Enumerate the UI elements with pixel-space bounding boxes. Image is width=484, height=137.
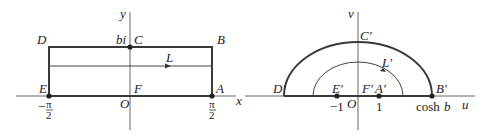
figure-canvas: y x O D B C bi L E F A − π 2 π 2 v u O C…	[0, 0, 484, 137]
origin-label: O	[347, 96, 357, 111]
label-A: A	[215, 81, 224, 96]
label-D-prime: D′	[272, 81, 285, 96]
label-L: L	[165, 50, 173, 65]
v-axis-label: v	[348, 6, 354, 21]
label-E-prime: E′	[331, 81, 343, 96]
point-C	[127, 44, 132, 49]
tick-b: b	[444, 99, 451, 114]
y-axis-label: y	[118, 6, 126, 21]
label-A-prime: A′	[374, 81, 386, 96]
label-B: B	[217, 32, 225, 47]
origin-label: O	[120, 96, 130, 111]
u-axis-label: u	[462, 97, 469, 112]
label-E: E	[38, 81, 47, 96]
label-C: C	[134, 32, 143, 47]
label-L-prime: L′	[381, 55, 392, 70]
left-panel: y x O D B C bi L E F A − π 2 π 2	[16, 6, 242, 130]
label-F-prime: F′	[361, 81, 373, 96]
tick-two-neg: 2	[46, 109, 52, 121]
right-panel: v u O C′ L′ D′ E′ F′ A′ B′ −1 1 cosh b	[245, 6, 475, 130]
tick-two-pos: 2	[209, 109, 215, 121]
tick-cosh: cosh	[416, 99, 440, 114]
tick-minus-one: −1	[330, 99, 344, 114]
minus-sign: −	[38, 99, 45, 114]
point-B-prime	[429, 93, 434, 98]
label-B-prime: B′	[436, 81, 447, 96]
label-D: D	[36, 32, 47, 47]
label-F: F	[133, 81, 143, 96]
conformal-map-figure: y x O D B C bi L E F A − π 2 π 2 v u O C…	[0, 0, 484, 137]
label-C-prime: C′	[360, 28, 372, 43]
label-bi: bi	[116, 32, 127, 47]
tick-one: 1	[376, 99, 383, 114]
x-axis-label: x	[235, 93, 242, 108]
